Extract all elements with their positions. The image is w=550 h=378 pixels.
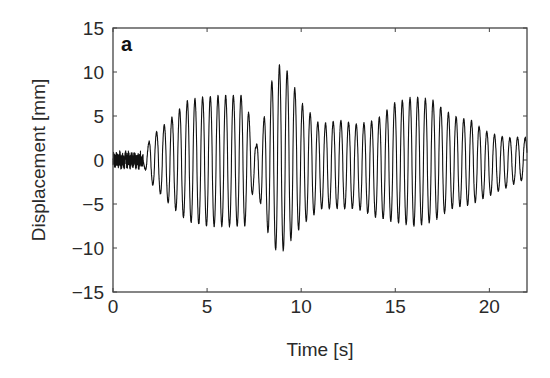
- y-axis-label: Displacement [mm]: [28, 79, 49, 242]
- x-axis-label: Time [s]: [287, 339, 354, 360]
- x-tick-label: 10: [291, 296, 312, 317]
- y-tick-label: 10: [83, 62, 104, 83]
- y-tick-label: −15: [72, 282, 104, 303]
- x-tick-label: 0: [108, 296, 119, 317]
- displacement-signal-line: [113, 65, 527, 251]
- displacement-chart: −15−10−5051015 05101520 a Time [s] Displ…: [0, 0, 550, 378]
- x-tick-label: 5: [202, 296, 213, 317]
- x-tick-labels: 05101520: [108, 296, 500, 317]
- y-tick-label: −10: [72, 238, 104, 259]
- panel-label: a: [121, 33, 133, 55]
- y-tick-labels: −15−10−5051015: [72, 18, 104, 303]
- y-tick-label: 0: [93, 150, 104, 171]
- x-tick-label: 20: [479, 296, 500, 317]
- y-tick-label: −5: [82, 194, 104, 215]
- y-tick-label: 5: [93, 106, 104, 127]
- x-tick-label: 15: [385, 296, 406, 317]
- y-tick-label: 15: [83, 18, 104, 39]
